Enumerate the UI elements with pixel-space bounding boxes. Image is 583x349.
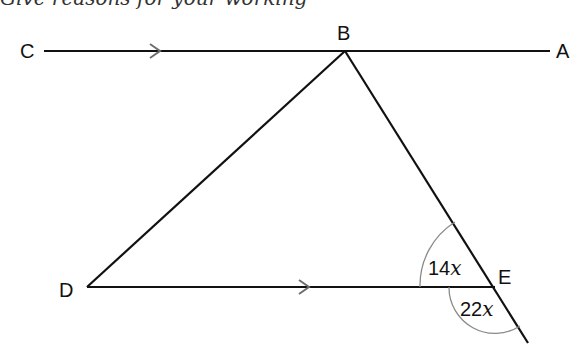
line-bd xyxy=(87,51,345,287)
point-label-a: A xyxy=(556,40,570,62)
angle-label-22x: 22x xyxy=(460,297,494,321)
point-label-d: D xyxy=(59,279,73,301)
point-label-c: C xyxy=(20,40,34,62)
point-label-e: E xyxy=(498,266,511,288)
geometry-diagram: C B A D E 14x 22x xyxy=(0,0,583,349)
line-be-extended xyxy=(345,51,528,343)
angle-label-14x: 14x xyxy=(428,256,462,280)
point-label-b: B xyxy=(337,22,350,44)
